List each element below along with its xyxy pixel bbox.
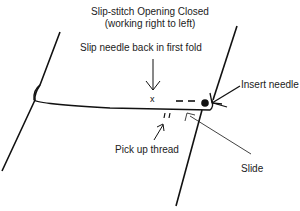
left-fabric-edge xyxy=(2,32,60,171)
thread-pick-2 xyxy=(169,113,170,118)
right-fabric-edge-lower xyxy=(176,110,202,206)
right-fabric-edge-upper xyxy=(213,26,237,100)
needle-point-dot xyxy=(201,99,209,107)
slide-leader-line xyxy=(190,116,251,154)
fold-line xyxy=(34,100,213,110)
label-slide: Slide xyxy=(241,163,263,175)
x-mark: x xyxy=(150,94,155,104)
pick-up-arrow-shaft xyxy=(154,125,163,140)
label-insert-needle: Insert needle xyxy=(241,79,299,91)
label-slip-needle: Slip needle back in first fold xyxy=(80,42,202,54)
label-pick-up-thread: Pick up thread xyxy=(115,144,179,156)
stitch-diagram xyxy=(0,0,300,211)
slide-arrowhead xyxy=(185,113,195,121)
thread-pick-1 xyxy=(164,113,165,118)
